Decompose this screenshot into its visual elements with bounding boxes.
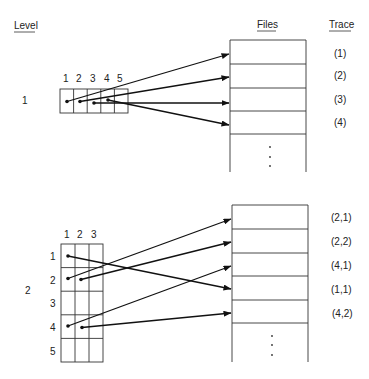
two-level-file-index-diagram: Level Files Trace 1 1 2 3 4 5 (1) (2) <box>0 0 369 379</box>
svg-text:Level: Level <box>14 20 38 31</box>
svg-text:(4): (4) <box>334 117 346 128</box>
svg-text:5: 5 <box>50 346 56 357</box>
svg-text:(1): (1) <box>334 48 346 59</box>
svg-text:(4,1): (4,1) <box>331 260 352 271</box>
header-trace: Trace <box>329 19 355 31</box>
level-1-label: 1 <box>22 95 28 106</box>
svg-text:(3): (3) <box>334 94 346 105</box>
level-2-column-labels: 1 2 3 <box>64 229 97 240</box>
header-files: Files <box>257 19 278 31</box>
svg-text:(2,1): (2,1) <box>331 212 352 223</box>
svg-text:(2): (2) <box>334 70 346 81</box>
level-1-trace-labels: (1) (2) (3) (4) <box>334 48 346 128</box>
svg-text:4: 4 <box>104 73 110 84</box>
svg-text:1: 1 <box>64 229 70 240</box>
level-2-label: 2 <box>25 285 31 296</box>
svg-text:3: 3 <box>90 73 96 84</box>
svg-text:1: 1 <box>50 251 56 262</box>
svg-text:(4,2): (4,2) <box>332 308 353 319</box>
svg-text:4: 4 <box>50 322 56 333</box>
level-2-files-table <box>232 205 308 362</box>
svg-text:(2,2): (2,2) <box>331 236 352 247</box>
level-1-files-table <box>230 40 306 172</box>
level-1-column-labels: 1 2 3 4 5 <box>63 73 123 84</box>
svg-text:2: 2 <box>76 73 82 84</box>
level-2-trace-labels: (2,1) (2,2) (4,1) (1,1) (4,2) <box>331 212 353 319</box>
svg-text:Files: Files <box>257 19 278 30</box>
svg-text:Trace: Trace <box>329 19 355 30</box>
svg-text:3: 3 <box>50 298 56 309</box>
svg-text:1: 1 <box>63 73 69 84</box>
svg-text:3: 3 <box>91 229 97 240</box>
header-level: Level <box>14 20 38 32</box>
svg-text:5: 5 <box>117 73 123 84</box>
svg-text:2: 2 <box>50 275 56 286</box>
level-1-pointers <box>65 54 229 125</box>
svg-text:(1,1): (1,1) <box>331 284 352 295</box>
level-2-row-labels: 1 2 3 4 5 <box>50 251 56 357</box>
svg-text:2: 2 <box>77 229 83 240</box>
